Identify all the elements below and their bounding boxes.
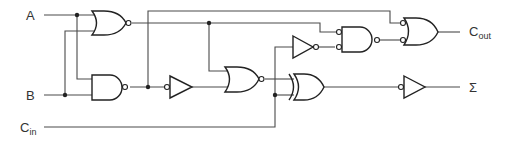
inverter-gate-1 bbox=[165, 76, 193, 98]
or-gate-cout bbox=[401, 18, 439, 45]
nor-gate-1 bbox=[92, 11, 131, 35]
nor-gate-2 bbox=[225, 67, 264, 92]
not-gate-cin bbox=[293, 36, 319, 58]
nand-gate-1 bbox=[92, 75, 128, 100]
circuit-schematic bbox=[0, 0, 510, 146]
nand-gate-2 bbox=[337, 27, 380, 52]
xor-gate bbox=[289, 74, 324, 100]
inverter-gate-sum bbox=[399, 76, 426, 98]
full-adder-diagram: A B Cin Cout Σ bbox=[0, 0, 510, 146]
